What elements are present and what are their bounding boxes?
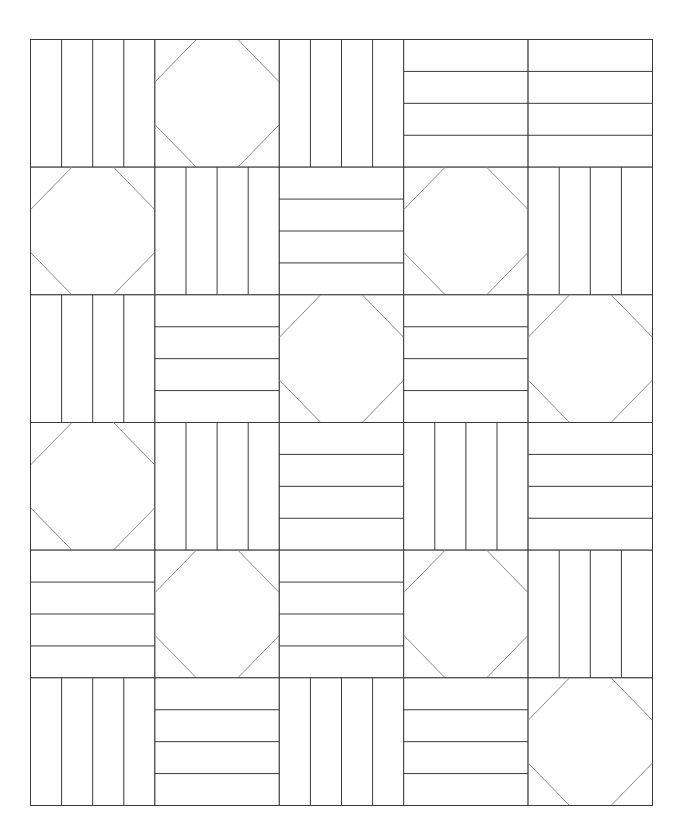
horizontal-rail-block: [404, 678, 528, 806]
snowball-octagon-block: [404, 167, 528, 295]
snowball-octagon-block: [528, 678, 652, 806]
snowball-octagon-block: [279, 295, 403, 423]
vertical-rail-block: [31, 295, 155, 423]
snowball-octagon-block: [528, 295, 652, 423]
block-outline: [155, 40, 279, 168]
vertical-rail-block: [528, 550, 652, 678]
vertical-rail-block: [404, 423, 528, 551]
block-outline: [404, 550, 528, 678]
snowball-octagon-block: [404, 550, 528, 678]
block-outline: [279, 295, 403, 423]
horizontal-rail-block: [31, 550, 155, 678]
horizontal-rail-block: [528, 40, 652, 168]
vertical-rail-block: [31, 678, 155, 806]
quilt-blocks: [31, 40, 653, 806]
vertical-rail-block: [31, 40, 155, 168]
vertical-rail-block: [528, 167, 652, 295]
snowball-octagon-block: [155, 550, 279, 678]
block-outline: [528, 678, 652, 806]
snowball-octagon-block: [31, 167, 155, 295]
vertical-rail-block: [155, 423, 279, 551]
horizontal-rail-block: [404, 295, 528, 423]
horizontal-rail-block: [155, 295, 279, 423]
block-outline: [31, 423, 155, 551]
vertical-rail-block: [155, 167, 279, 295]
horizontal-rail-block: [279, 423, 403, 551]
block-outline: [31, 167, 155, 295]
block-outline: [528, 295, 652, 423]
block-outline: [155, 550, 279, 678]
horizontal-rail-block: [528, 423, 652, 551]
quilt-diagram: [0, 0, 680, 832]
snowball-octagon-block: [31, 423, 155, 551]
horizontal-rail-block: [404, 40, 528, 168]
block-outline: [404, 167, 528, 295]
horizontal-rail-block: [279, 550, 403, 678]
vertical-rail-block: [279, 40, 403, 168]
vertical-rail-block: [279, 678, 403, 806]
horizontal-rail-block: [279, 167, 403, 295]
horizontal-rail-block: [155, 678, 279, 806]
snowball-octagon-block: [155, 40, 279, 168]
